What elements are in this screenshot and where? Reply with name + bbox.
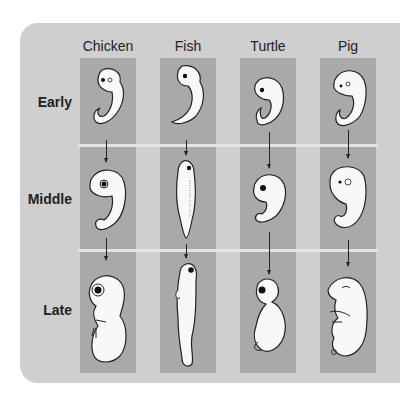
arrow-down-icon — [269, 132, 270, 168]
embryo-fish-middle-icon — [174, 158, 200, 242]
arrow-down-icon — [106, 140, 107, 162]
row-divider-early-middle — [78, 144, 378, 147]
embryo-turtle-early-icon — [249, 74, 291, 132]
embryo-pig-late-icon — [324, 270, 372, 362]
embryo-turtle-middle-icon — [250, 172, 292, 228]
embryo-turtle-late-icon — [250, 276, 292, 356]
embryo-fish-late-icon — [172, 260, 202, 370]
column-header-pig: Pig — [308, 38, 388, 54]
row-label-late: Late — [28, 302, 72, 318]
arrow-down-icon — [269, 232, 270, 274]
arrow-down-icon — [186, 140, 187, 155]
arrow-down-icon — [348, 240, 349, 266]
row-label-middle: Middle — [20, 191, 72, 207]
column-header-fish: Fish — [148, 38, 228, 54]
embryo-pig-middle-icon — [326, 162, 372, 234]
arrow-down-icon — [348, 130, 349, 158]
embryo-chicken-middle-icon — [86, 166, 132, 236]
arrow-down-icon — [186, 244, 187, 258]
embryo-pig-early-icon — [328, 68, 372, 134]
row-label-early: Early — [28, 94, 72, 110]
row-divider-middle-late — [78, 249, 378, 252]
column-header-chicken: Chicken — [68, 38, 148, 54]
arrow-down-icon — [106, 238, 107, 260]
embryo-fish-early-icon — [166, 62, 212, 130]
embryo-chicken-early-icon — [88, 66, 130, 132]
embryo-chicken-late-icon — [84, 272, 134, 368]
column-header-turtle: Turtle — [228, 38, 308, 54]
